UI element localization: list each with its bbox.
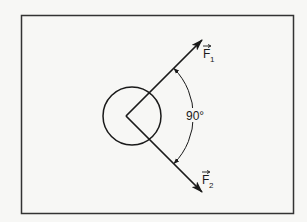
force-f2-arrow — [126, 116, 202, 192]
object-circle — [103, 87, 161, 145]
force-f1-arrow — [126, 40, 202, 116]
force-f1-label: F 1 — [203, 45, 215, 65]
force-f2-subscript: 2 — [209, 181, 214, 190]
angle-label: 90° — [186, 109, 204, 123]
force-f1-subscript: 1 — [210, 55, 215, 64]
diagram-frame — [22, 16, 294, 214]
force-f2-label: F 2 — [202, 171, 214, 191]
force-diagram: 90° F 1 F 2 — [0, 0, 307, 222]
